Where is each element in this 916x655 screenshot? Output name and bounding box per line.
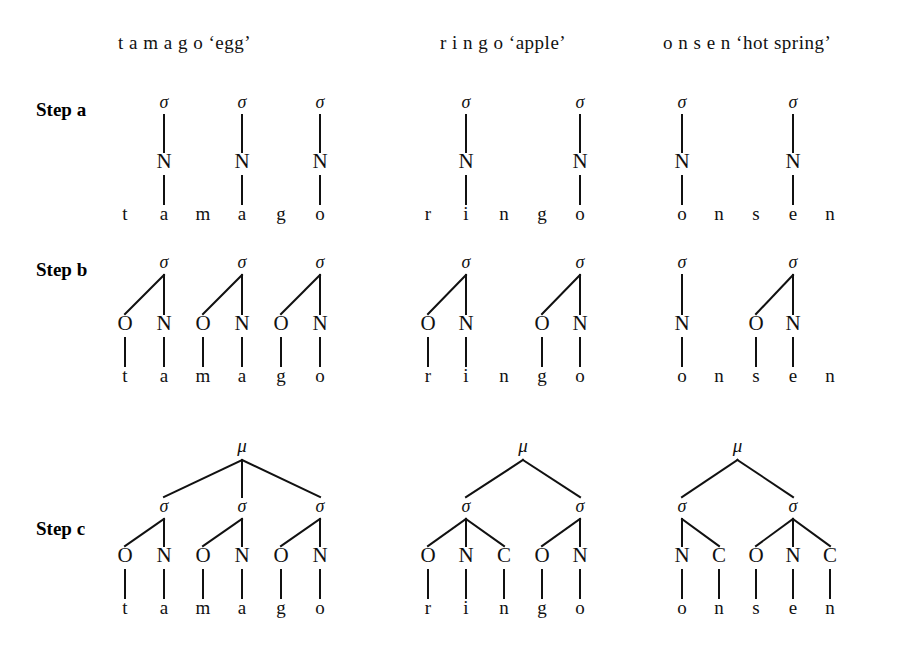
segment-m: m [196, 203, 211, 224]
segment-i: i [463, 597, 468, 618]
syllable-branch [203, 519, 242, 546]
sigma-node: σ [160, 496, 170, 516]
segment-e: e [789, 597, 797, 618]
syllable-branch [203, 275, 242, 314]
segment-i: i [463, 365, 468, 386]
syllable-branch [281, 519, 320, 546]
syllable-branch [542, 275, 580, 314]
segment-i: i [463, 203, 468, 224]
segment-a: a [238, 597, 247, 618]
mora-branch [682, 460, 738, 497]
segment-a: a [238, 203, 247, 224]
segment-m: m [196, 597, 211, 618]
syllable-branch [793, 519, 830, 546]
sigma-node: σ [789, 252, 799, 272]
sigma-node: σ [238, 92, 248, 112]
segment-s: s [752, 365, 759, 386]
sigma-node: σ [160, 92, 170, 112]
segment-o: o [315, 365, 325, 386]
mora-branch [466, 460, 523, 497]
sigma-node: σ [316, 252, 326, 272]
mora-branch [523, 460, 580, 497]
syllable-branch [125, 275, 164, 314]
segment-n: n [825, 365, 835, 386]
syllable-branch [125, 519, 164, 546]
segment-e: e [789, 203, 797, 224]
segment-t: t [122, 597, 128, 618]
syllable-structure-diagram: tamagoNσNσNσringoNσNσonsenNσNσtamagoONσO… [0, 0, 916, 655]
mora-branch [738, 460, 794, 497]
segment-o: o [315, 597, 325, 618]
sigma-node: σ [238, 496, 248, 516]
syllable-branch [682, 519, 719, 546]
segment-n: n [499, 597, 509, 618]
sigma-node: σ [576, 496, 586, 516]
segment-a: a [238, 365, 247, 386]
sigma-node: σ [462, 252, 472, 272]
syllable-branch [756, 519, 793, 546]
segment-g: g [276, 597, 286, 618]
sigma-node: σ [462, 496, 472, 516]
sigma-node: σ [576, 92, 586, 112]
sigma-node: σ [238, 252, 248, 272]
segment-g: g [537, 597, 547, 618]
segment-n: n [714, 203, 724, 224]
segment-o: o [575, 203, 585, 224]
segment-n: n [825, 597, 835, 618]
mu-node: μ [236, 435, 247, 456]
sigma-node: σ [678, 92, 688, 112]
sigma-node: σ [678, 496, 688, 516]
syllable-branch [542, 519, 580, 546]
segment-r: r [425, 203, 432, 224]
segment-a: a [160, 203, 169, 224]
segment-n: n [499, 365, 509, 386]
segment-o: o [315, 203, 325, 224]
segment-g: g [537, 365, 547, 386]
syllable-branch [428, 519, 466, 546]
sigma-node: σ [576, 252, 586, 272]
segment-g: g [276, 365, 286, 386]
syllable-branch [466, 519, 504, 546]
segment-o: o [677, 203, 687, 224]
segment-s: s [752, 203, 759, 224]
segment-a: a [160, 597, 169, 618]
syllable-branch [756, 275, 793, 314]
segment-a: a [160, 365, 169, 386]
segment-g: g [276, 203, 286, 224]
mora-branch [164, 460, 242, 497]
segment-g: g [537, 203, 547, 224]
sigma-node: σ [316, 92, 326, 112]
segment-n: n [825, 203, 835, 224]
sigma-node: σ [462, 92, 472, 112]
mu-node: μ [732, 435, 743, 456]
segment-o: o [677, 597, 687, 618]
sigma-node: σ [789, 496, 799, 516]
segment-e: e [789, 365, 797, 386]
mora-branch [242, 460, 320, 497]
segment-t: t [122, 203, 128, 224]
syllable-branch [281, 275, 320, 314]
segment-s: s [752, 597, 759, 618]
sigma-node: σ [160, 252, 170, 272]
syllable-branch [428, 275, 466, 314]
segment-m: m [196, 365, 211, 386]
segment-r: r [425, 597, 432, 618]
segment-r: r [425, 365, 432, 386]
segment-n: n [499, 203, 509, 224]
segment-n: n [714, 597, 724, 618]
sigma-node: σ [789, 92, 799, 112]
segment-o: o [677, 365, 687, 386]
mu-node: μ [517, 435, 528, 456]
segment-o: o [575, 597, 585, 618]
segment-n: n [714, 365, 724, 386]
sigma-node: σ [678, 252, 688, 272]
segment-t: t [122, 365, 128, 386]
sigma-node: σ [316, 496, 326, 516]
segment-o: o [575, 365, 585, 386]
